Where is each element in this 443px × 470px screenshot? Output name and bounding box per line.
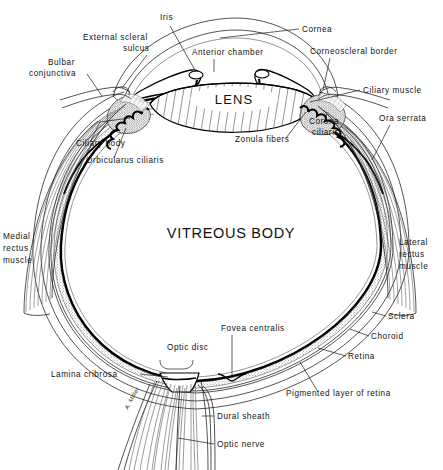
label-iris: Iris [160, 13, 173, 22]
label-medial-rectus-2: rectus [3, 244, 29, 253]
label-optic-disc: Optic disc [167, 343, 208, 352]
label-optic-nerve: Optic nerve [217, 440, 265, 449]
label-corona-ciliaris-1: Corona [309, 117, 339, 126]
label-corneoscleral-border: Corneoscleral border [310, 47, 397, 56]
label-cornea: Cornea [302, 25, 332, 34]
eye-anatomy-figure: A. Miller LENS VITREOUS BODY IrisCorneaE… [0, 0, 443, 470]
label-corona-ciliaris-2: ciliaris [312, 128, 339, 137]
label-medial-rectus-1: Medial [3, 232, 30, 241]
label-orbicularus-ciliaris: Orbicularus ciliaris [86, 156, 164, 165]
label-zonula-fibers: Zonula fibers [235, 135, 289, 144]
iris-pupil-margin-right [255, 70, 269, 78]
label-lateral-rectus-2: rectus [399, 250, 425, 259]
label-anterior-chamber: Anterior chamber [192, 48, 264, 57]
label-bulbar-conjunctiva-1: Bulbar [48, 58, 75, 67]
lens-region-label: LENS [215, 92, 253, 107]
label-ciliary-body: Ciliary body [76, 139, 126, 148]
label-lateral-rectus-3: muscle [399, 262, 428, 271]
label-sclera: Sclera [388, 312, 415, 321]
eye-diagram-svg: A. Miller LENS VITREOUS BODY IrisCorneaE… [0, 0, 443, 470]
label-choroid: Choroid [371, 332, 404, 341]
label-dural-sheath: Dural sheath [217, 412, 270, 421]
vitreous-body-region-label: VITREOUS BODY [167, 225, 295, 241]
label-external-scleral-sulcus-1: External scleral [83, 33, 148, 42]
label-lamina-cribrosa: Lamina cribrosa [51, 370, 118, 379]
label-external-scleral-sulcus-2: sulcus [123, 44, 150, 53]
label-fovea-centralis: Fovea centralis [221, 324, 285, 333]
label-ora-serrata: Ora serrata [379, 114, 426, 123]
label-ciliary-muscle: Ciliary muscle [363, 86, 422, 95]
label-lateral-rectus-1: Lateral [399, 238, 428, 247]
label-medial-rectus-3: muscle [3, 256, 32, 265]
iris-pupil-margin-left [189, 71, 203, 79]
label-bulbar-conjunctiva-2: conjunctiva [29, 69, 76, 78]
label-retina: Retina [348, 352, 375, 361]
label-pigmented-layer-of-retina: Pigmented layer of retina [286, 389, 391, 398]
